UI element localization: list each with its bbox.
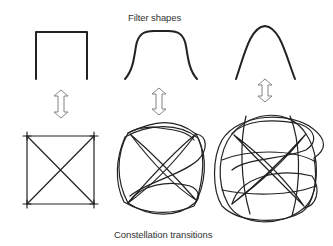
constellation-heavy [215,115,324,222]
constellation-transitions-label: Constellation transitions [114,229,212,240]
filter-shape-rolloff [125,31,197,79]
diagram-canvas [0,0,333,246]
filter-shape-bell [236,26,295,79]
constellation-moderate [117,123,205,215]
double-arrow-icon [152,88,166,115]
filter-shapes-label: Filter shapes [128,12,181,23]
filter-shape-rectangular [36,32,87,79]
constellation-square [23,132,98,208]
double-arrow-icon [54,90,68,118]
double-arrow-icon [258,79,272,102]
